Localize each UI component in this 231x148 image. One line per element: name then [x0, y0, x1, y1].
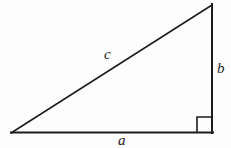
- hypotenuse-line: [11, 5, 212, 133]
- right-triangle-figure: c b a: [0, 0, 231, 148]
- hypotenuse-label: c: [104, 47, 111, 62]
- right-angle-marker: [197, 117, 212, 132]
- triangle-drawing: [0, 0, 231, 148]
- vertical-side-label: b: [217, 61, 225, 76]
- base-side-label: a: [118, 133, 126, 148]
